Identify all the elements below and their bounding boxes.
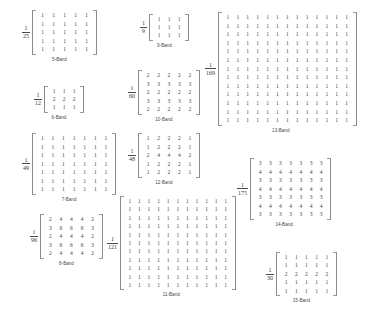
matrix-row: 22222: [281, 270, 332, 278]
matrix-row: 1111111111111: [223, 39, 352, 48]
matrix-row: 1111111: [37, 168, 111, 177]
matrix-cell: 2: [164, 105, 174, 114]
matrix-cell: 1: [183, 205, 193, 213]
matrix-cell: 1: [90, 160, 101, 169]
matrix-cell: 1: [292, 99, 302, 108]
matrix-cell: 6: [56, 224, 67, 233]
matrix-cell: 1: [233, 99, 243, 108]
matrix-cell: 1: [322, 65, 332, 74]
matrix-cell: 1: [202, 239, 212, 247]
matrix-cell: 1: [253, 73, 263, 82]
matrix-row: 11111111111: [125, 247, 231, 255]
matrix-cell: 2: [174, 88, 184, 97]
matrix-cell: 1: [37, 143, 48, 152]
matrix-cell: 1: [49, 87, 59, 95]
matrix-cell: 3: [164, 97, 174, 106]
matrix-row: 11111111111: [125, 231, 231, 239]
matrix-cell: 3: [153, 97, 163, 106]
matrix-cell: 1: [253, 22, 263, 31]
matrix-cell: 1: [185, 134, 195, 143]
matrix-cell: 1: [253, 99, 263, 108]
matrix-cell: 1: [37, 45, 48, 54]
matrix-cell: 1: [291, 253, 301, 261]
matrix-cell: 2: [312, 270, 322, 278]
matrix-cell: 1: [272, 39, 282, 48]
matrix-cell: 1: [48, 134, 59, 143]
matrix-cell: 1: [342, 39, 352, 48]
matrix-cell: 1: [282, 22, 292, 31]
left-bracket-icon: [250, 158, 254, 220]
matrix-cell: 1: [164, 15, 174, 23]
matrix-cell: 1: [301, 287, 311, 295]
matrix-cell: 1: [69, 185, 80, 194]
matrix-cell: 1: [69, 151, 80, 160]
matrix-row: 4444444: [255, 202, 326, 211]
matrix-cell: 1: [37, 185, 48, 194]
matrix-cell: 1: [173, 273, 183, 281]
left-bracket-icon: [120, 196, 124, 290]
matrix-cell: 1: [253, 30, 263, 39]
matrix-cell: 1: [135, 222, 145, 230]
fraction-denominator: 30: [266, 275, 274, 282]
matrix-cell: 3: [265, 193, 275, 202]
matrix-cell: 1: [173, 205, 183, 213]
matrix-cell: 1: [81, 11, 92, 20]
matrix-cell: 1: [211, 281, 221, 289]
matrix-cell: 1: [163, 239, 173, 247]
matrix-cell: 1: [312, 65, 322, 74]
matrix: 111111111: [154, 14, 184, 41]
matrix-cell: 3: [164, 80, 174, 89]
matrix-cell: 1: [90, 185, 101, 194]
matrix-cell: 1: [342, 116, 352, 125]
matrix-row: 11111: [281, 287, 332, 295]
matrix-cell: 1: [263, 90, 273, 99]
matrix-cell: 1: [125, 214, 135, 222]
matrix-cell: 1: [272, 82, 282, 91]
matrix-cell: 1: [202, 281, 212, 289]
matrix-cell: 1: [70, 11, 81, 20]
matrix-cell: 1: [263, 82, 273, 91]
matrix-cell: 1: [281, 287, 291, 295]
matrix-cell: 1: [312, 39, 322, 48]
matrix-cell: 3: [306, 159, 316, 168]
matrix-cell: 1: [144, 281, 154, 289]
kernel-caption: 12-Band: [155, 179, 172, 186]
matrix-row: 11111111111: [125, 197, 231, 205]
matrix-cell: 1: [322, 261, 332, 269]
matrix-cell: 1: [183, 281, 193, 289]
matrix-cell: 3: [255, 176, 265, 185]
matrix-cell: 1: [125, 264, 135, 272]
matrix-cell: 1: [312, 47, 322, 56]
matrix-row: 22222: [143, 71, 195, 80]
matrix-cell: 1: [59, 103, 69, 111]
scale-fraction: 112: [34, 92, 42, 106]
matrix-cell: 2: [143, 151, 153, 160]
kernel-band-6: 1121112221116-Band: [34, 86, 84, 121]
matrix-cell: 1: [173, 214, 183, 222]
matrix-cell: 4: [255, 185, 265, 194]
matrix-cell: 1: [183, 231, 193, 239]
matrix-cell: 4: [164, 151, 174, 160]
matrix-cell: 1: [164, 23, 174, 31]
matrix-cell: 1: [192, 273, 202, 281]
matrix-cell: 1: [332, 108, 342, 117]
matrix-cell: 1: [135, 197, 145, 205]
matrix-cell: 1: [292, 116, 302, 125]
kernel-band-13: 1169111111111111111111111111111111111111…: [205, 12, 357, 134]
right-bracket-icon: [196, 70, 200, 115]
matrix-cell: 1: [174, 23, 184, 31]
matrix-cell: 1: [342, 22, 352, 31]
matrix-cell: 1: [48, 37, 59, 46]
matrix-cell: 4: [316, 202, 326, 211]
matrix-cell: 1: [125, 281, 135, 289]
matrix-cell: 1: [59, 11, 70, 20]
matrix-cell: 4: [286, 168, 296, 177]
matrix-cell: 4: [265, 202, 275, 211]
fraction-denominator: 49: [22, 164, 30, 171]
matrix-cell: 1: [243, 22, 253, 31]
matrix-cell: 1: [253, 65, 263, 74]
matrix-cell: 1: [37, 168, 48, 177]
matrix-row: 1111111111111: [223, 116, 352, 125]
matrix-cell: 1: [253, 13, 263, 22]
matrix-cell: 1: [69, 168, 80, 177]
